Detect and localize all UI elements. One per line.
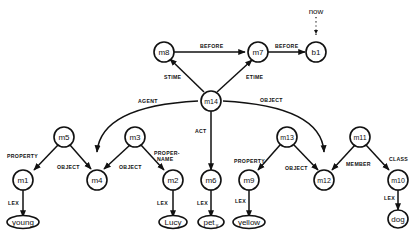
node-m5: m5 bbox=[54, 127, 74, 147]
node-yellow: yellow bbox=[233, 216, 265, 229]
svg-text:young: young bbox=[12, 218, 34, 227]
svg-text:m1: m1 bbox=[17, 176, 29, 185]
node-m11: m11 bbox=[350, 127, 370, 147]
edge-label-object: OBJECT bbox=[285, 165, 308, 171]
edge-label-stime: STIME bbox=[164, 74, 182, 80]
svg-text:m3: m3 bbox=[129, 133, 141, 142]
edge-label-member: MEMBER bbox=[346, 161, 371, 167]
label-now: now bbox=[309, 7, 324, 16]
svg-text:m6: m6 bbox=[205, 176, 217, 185]
svg-text:m8: m8 bbox=[158, 48, 170, 57]
svg-text:m13: m13 bbox=[280, 134, 294, 141]
edge-label-lex: LEX bbox=[157, 200, 168, 206]
svg-text:m9: m9 bbox=[243, 176, 255, 185]
semantic-network-diagram: BEFORE BEFORE STIME ETIME AGENT OBJECT A… bbox=[0, 0, 416, 239]
edge-label-before: BEFORE bbox=[200, 43, 224, 49]
svg-text:m4: m4 bbox=[91, 176, 103, 185]
edge-label-lex: LEX bbox=[197, 200, 208, 206]
node-m13: m13 bbox=[277, 127, 297, 147]
edge-label-property: PROPERTY bbox=[234, 158, 265, 164]
node-m1: m1 bbox=[13, 170, 33, 190]
edge-label-object: OBJECT bbox=[260, 97, 283, 103]
svg-text:m5: m5 bbox=[58, 133, 70, 142]
svg-text:b1: b1 bbox=[312, 48, 321, 57]
node-m6: m6 bbox=[201, 170, 221, 190]
edge-label-proper-name: NAME bbox=[157, 156, 174, 162]
node-m3: m3 bbox=[125, 127, 145, 147]
edge-label-etime: ETIME bbox=[246, 74, 264, 80]
edge-m14-m12 bbox=[223, 101, 324, 152]
svg-text:m2: m2 bbox=[167, 176, 179, 185]
svg-text:m12: m12 bbox=[317, 177, 331, 184]
node-dog: dog bbox=[388, 210, 408, 228]
svg-text:m11: m11 bbox=[353, 134, 366, 141]
svg-text:m7: m7 bbox=[252, 48, 264, 57]
edge-label-lex: LEX bbox=[8, 200, 19, 206]
edge-m14-m4 bbox=[97, 101, 198, 152]
node-m10: m10 bbox=[388, 170, 408, 190]
edge-label-agent: AGENT bbox=[138, 98, 158, 104]
node-lucy: Lucy bbox=[159, 216, 187, 229]
node-b1: b1 bbox=[306, 42, 326, 62]
node-m9: m9 bbox=[239, 170, 259, 190]
nodes: m8 m7 b1 now m14 m5 m3 m1 m4 m2 m6 m13 m… bbox=[7, 7, 408, 229]
svg-text:m10: m10 bbox=[391, 177, 405, 184]
edge-label-before: BEFORE bbox=[275, 43, 299, 49]
node-m14: m14 bbox=[201, 91, 221, 111]
svg-text:dog: dog bbox=[391, 215, 404, 224]
edge-label-property: PROPERTY bbox=[7, 153, 38, 159]
arrow-head bbox=[314, 30, 318, 34]
edge-label-class: CLASS bbox=[389, 156, 408, 162]
svg-text:Lucy: Lucy bbox=[165, 218, 182, 227]
svg-text:m14: m14 bbox=[204, 98, 218, 105]
edge-label-object: OBJECT bbox=[119, 164, 142, 170]
node-m4: m4 bbox=[87, 170, 107, 190]
edge-label-act: ACT bbox=[195, 128, 207, 134]
node-pet: pet v bbox=[198, 216, 224, 229]
svg-text:yellow: yellow bbox=[238, 218, 260, 227]
node-m8: m8 bbox=[154, 42, 174, 62]
node-m2: m2 bbox=[163, 170, 183, 190]
edge-label-object: OBJECT bbox=[57, 164, 80, 170]
edge-label-lex: LEX bbox=[384, 195, 395, 201]
edge-label-lex: LEX bbox=[235, 198, 246, 204]
node-m12: m12 bbox=[314, 170, 334, 190]
node-young: young bbox=[7, 216, 39, 229]
node-m7: m7 bbox=[248, 42, 268, 62]
svg-text:pet: pet bbox=[203, 218, 215, 227]
